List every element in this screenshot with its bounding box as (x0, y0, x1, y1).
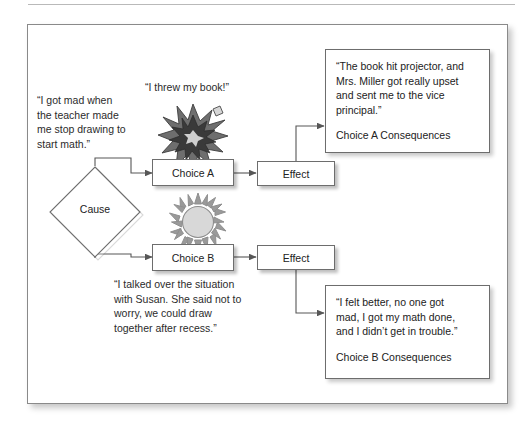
cause-annotation-text: “I got mad when the teacher made me stop… (37, 93, 177, 151)
choice-a-box[interactable]: Choice A (152, 159, 234, 186)
effect-a-box[interactable]: Effect (257, 161, 335, 186)
connector-effect-b-to-consequences-b (296, 270, 324, 313)
choice-b-label: Choice B (172, 252, 215, 264)
choice-a-consequence-quote: “The book hit projector, and Mrs. Miller… (336, 59, 479, 117)
connector-effect-a-to-consequences-a (296, 126, 324, 161)
choice-a-label: Choice A (172, 167, 214, 179)
choice-a-consequence-label: Choice A Consequences (336, 128, 479, 143)
choice-a-consequences-box[interactable]: “The book hit projector, and Mrs. Miller… (325, 49, 490, 153)
effect-b-box[interactable]: Effect (257, 245, 335, 270)
choice-b-box[interactable]: Choice B (152, 244, 234, 271)
choice-b-consequence-label: Choice B Consequences (336, 350, 479, 365)
branch-a-annotation-text: “I threw my book!” (145, 80, 285, 95)
effect-b-label: Effect (283, 252, 310, 264)
diagram-frame: Cause “I got mad when the teacher made m… (27, 24, 508, 404)
choice-b-consequence-quote: “I felt better, no one got mad, I got my… (336, 295, 479, 339)
cause-label: Cause (48, 203, 142, 215)
top-divider-rule (28, 4, 515, 5)
sun-burst-icon (169, 193, 227, 251)
branch-b-annotation-text: “I talked over the situation with Susan.… (114, 277, 289, 335)
choice-b-consequences-box[interactable]: “I felt better, no one got mad, I got my… (325, 285, 490, 379)
effect-a-label: Effect (283, 168, 310, 180)
diagram-canvas: Cause “I got mad when the teacher made m… (28, 25, 509, 405)
